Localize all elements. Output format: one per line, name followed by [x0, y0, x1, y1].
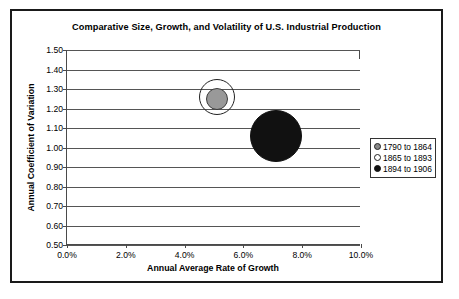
y-tick-label: 1.50 [46, 45, 63, 55]
legend-marker-black-icon [374, 165, 381, 172]
y-tick-mark [63, 128, 67, 129]
x-tick-mark [243, 244, 244, 248]
gridline [67, 245, 360, 246]
legend-label: 1790 to 1864 [383, 142, 432, 152]
plot-right-edge [359, 50, 360, 59]
y-axis-title: Annual Coefficient of Variation [26, 50, 40, 245]
gridline [67, 226, 360, 227]
x-tick-label: 0.0% [57, 250, 77, 260]
y-tick-mark [63, 206, 67, 207]
y-tick-label: 1.20 [46, 104, 63, 114]
legend-item: 1894 to 1906 [374, 163, 432, 174]
chart-frame: Comparative Size, Growth, and Volatility… [10, 9, 443, 283]
gridline [67, 50, 360, 51]
x-tick-mark [302, 244, 303, 248]
y-tick-mark [63, 226, 67, 227]
gridline [67, 187, 360, 188]
x-tick-label: 2.0% [116, 250, 136, 260]
x-axis-title: Annual Average Rate of Growth [66, 263, 360, 273]
y-tick-mark [63, 167, 67, 168]
legend-label: 1865 to 1893 [383, 153, 432, 163]
x-tick-mark [126, 244, 127, 248]
gridline [67, 70, 360, 71]
legend-marker-gray-icon [374, 143, 381, 150]
bubble-1894-to-1906 [250, 110, 302, 162]
y-tick-mark [63, 89, 67, 90]
legend-label: 1894 to 1906 [383, 164, 432, 174]
gridline [67, 128, 360, 129]
chart-title: Comparative Size, Growth, and Volatility… [12, 22, 441, 32]
gridline [67, 148, 360, 149]
y-tick-mark [63, 50, 67, 51]
y-tick-label: 1.00 [46, 143, 63, 153]
gridline [67, 167, 360, 168]
plot-area: 1.501.401.301.201.101.000.900.800.700.60… [66, 50, 360, 245]
x-tick-mark [185, 244, 186, 248]
y-tick-mark [63, 148, 67, 149]
y-tick-label: 0.80 [46, 182, 63, 192]
y-tick-label: 1.30 [46, 84, 63, 94]
x-tick-mark [361, 244, 362, 248]
legend-marker-hollow-icon [374, 154, 381, 161]
x-tick-label: 4.0% [175, 250, 195, 260]
y-tick-label: 0.50 [46, 240, 63, 250]
y-tick-mark [63, 187, 67, 188]
y-tick-label: 0.90 [46, 162, 63, 172]
y-tick-label: 1.40 [46, 65, 63, 75]
x-tick-label: 8.0% [292, 250, 312, 260]
chart-legend: 1790 to 18641865 to 18931894 to 1906 [370, 138, 436, 178]
y-tick-label: 0.70 [46, 201, 63, 211]
y-tick-label: 0.60 [46, 221, 63, 231]
y-tick-mark [63, 70, 67, 71]
y-tick-label: 1.10 [46, 123, 63, 133]
x-tick-label: 6.0% [234, 250, 254, 260]
legend-item: 1865 to 1893 [374, 152, 432, 163]
y-tick-mark [63, 109, 67, 110]
x-tick-label: 10.0% [349, 250, 373, 260]
legend-item: 1790 to 1864 [374, 141, 432, 152]
bubble-1790-to-1864 [206, 88, 228, 110]
x-tick-mark [67, 244, 68, 248]
gridline [67, 206, 360, 207]
